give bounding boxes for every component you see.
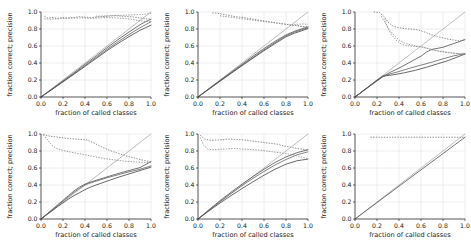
series-group [355,12,465,97]
chart-panel-6: 0.00.20.40.60.81.00.00.20.40.60.81.0frac… [314,122,471,244]
x-tick-label: 0.8 [438,100,448,107]
series-precision-curve-a [200,135,308,149]
x-tick-label: 0.6 [259,222,269,229]
series-group [198,12,308,97]
y-tick-label: 0.6 [185,42,195,49]
chart-panel-3: 0.00.20.40.60.81.00.00.20.40.60.81.0frac… [314,0,471,122]
x-tick-label: 0.4 [237,100,247,107]
x-tick-label: 0.4 [394,222,404,229]
series-precision-curve-b [200,137,308,158]
series-precision-curve-a [44,16,151,19]
x-tick-label: 0.2 [372,222,382,229]
x-tick-label: 0.2 [215,222,225,229]
x-tick-label: 1.0 [303,100,313,107]
series-precision-curve-a [43,134,151,161]
x-tick-label: 1.0 [460,100,470,107]
series-recall-curve-a [198,150,308,219]
y-tick-label: 0.8 [28,147,38,154]
x-tick-label: 0.2 [58,222,68,229]
series-group [355,134,465,219]
chart-panel-4: 0.00.20.40.60.81.00.00.20.40.60.81.0frac… [0,122,157,244]
chart-panel-5: 0.00.20.40.60.81.00.00.20.40.60.81.0frac… [157,122,314,244]
y-tick-label: 0.6 [185,164,195,171]
x-tick-label: 0.4 [237,222,247,229]
y-tick-label: 1.0 [185,130,195,137]
x-tick-label: 0.6 [102,222,112,229]
y-tick-label: 1.0 [28,8,38,15]
y-axis-label: fraction correct; precision [163,134,171,219]
series-group [198,134,308,219]
series-recall-curve-c [41,167,151,219]
x-tick-label: 0.0 [193,222,203,229]
x-tick-label: 0.8 [124,222,134,229]
y-axis-label: fraction correct; precision [163,12,171,97]
x-tick-label: 0.8 [124,100,134,107]
y-tick-label: 1.0 [342,130,352,137]
y-tick-label: 0.2 [185,198,195,205]
x-tick-label: 0.8 [438,222,448,229]
y-axis-label: fraction correct; precision [320,12,328,97]
figure-grid: 0.00.20.40.60.81.00.00.20.40.60.81.0frac… [0,0,471,244]
y-tick-label: 0.0 [185,93,195,100]
y-axis-label: fraction correct; precision [6,12,14,97]
x-tick-label: 0.0 [36,100,46,107]
y-tick-label: 0.2 [342,198,352,205]
x-tick-label: 1.0 [146,222,156,229]
x-tick-label: 1.0 [303,222,313,229]
y-tick-label: 0.8 [185,147,195,154]
x-axis-label: fraction of called classes [212,231,294,239]
y-tick-label: 0.4 [28,181,38,188]
chart-panel-2: 0.00.20.40.60.81.00.00.20.40.60.81.0frac… [157,0,314,122]
y-tick-label: 0.6 [28,164,38,171]
y-tick-label: 1.0 [28,130,38,137]
x-tick-label: 1.0 [146,100,156,107]
y-tick-label: 0.8 [28,25,38,32]
series-recall-curve-b [198,28,308,97]
y-tick-label: 0.8 [342,25,352,32]
x-tick-label: 0.0 [350,100,360,107]
x-tick-label: 1.0 [460,222,470,229]
series-group [41,134,151,219]
x-axis-label: fraction of called classes [55,231,137,239]
series-precision-curve-c [385,19,465,54]
x-tick-label: 0.8 [281,222,291,229]
y-tick-label: 1.0 [342,8,352,15]
x-tick-label: 0.4 [80,100,90,107]
series-recall-curve-b [198,152,308,219]
y-tick-label: 0.4 [28,59,38,66]
y-tick-label: 0.2 [28,198,38,205]
x-tick-label: 0.4 [394,100,404,107]
y-tick-label: 0.2 [185,76,195,83]
series-recall-curve-b [41,166,151,219]
y-tick-label: 0.6 [342,164,352,171]
x-axis-label: fraction of called classes [212,109,294,117]
y-tick-label: 0.2 [28,76,38,83]
series-recall-curve-c [355,54,465,97]
y-axis-label: fraction correct; precision [320,134,328,219]
y-tick-label: 0.8 [185,25,195,32]
series-recall-curve-c [41,25,151,97]
x-tick-label: 0.6 [102,100,112,107]
series-precision-curve-c [292,24,309,25]
x-tick-label: 0.6 [416,100,426,107]
x-tick-label: 0.2 [58,100,68,107]
x-axis-label: fraction of called classes [369,231,451,239]
chart-panel-1: 0.00.20.40.60.81.00.00.20.40.60.81.0frac… [0,0,157,122]
y-tick-label: 0.0 [28,215,38,222]
series-recall-curve-a [198,27,308,97]
y-tick-label: 0.0 [342,215,352,222]
x-tick-label: 0.6 [416,222,426,229]
x-tick-label: 0.8 [281,100,291,107]
series-recall-curve-a [355,137,465,219]
x-axis-label: fraction of called classes [369,109,451,117]
y-tick-label: 0.0 [185,215,195,222]
y-tick-label: 0.0 [342,93,352,100]
x-tick-label: 0.0 [350,222,360,229]
series-group [41,12,151,97]
series-precision-curve-c [96,13,151,16]
x-tick-label: 0.0 [193,100,203,107]
x-tick-label: 0.4 [80,222,90,229]
x-tick-label: 0.2 [372,100,382,107]
y-tick-label: 1.0 [185,8,195,15]
x-tick-label: 0.0 [36,222,46,229]
